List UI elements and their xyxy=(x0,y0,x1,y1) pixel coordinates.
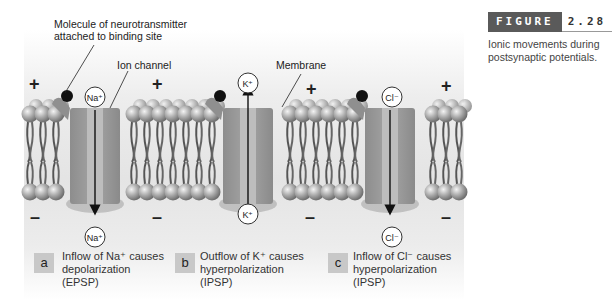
neurotransmitter-leader-line xyxy=(65,45,94,93)
lipid-tail xyxy=(212,122,215,162)
caption-line: Inflow of Cl⁻ causes xyxy=(353,250,451,263)
lipid-tail xyxy=(434,162,436,184)
lipid-tail xyxy=(30,122,33,162)
lipid-tail xyxy=(304,162,306,184)
ion-symbol: K⁺ xyxy=(242,210,253,220)
lipid-tail xyxy=(352,162,354,184)
lipid-tail xyxy=(53,162,55,184)
caption-line: (EPSP) xyxy=(62,276,164,289)
lipid-tail xyxy=(343,162,345,184)
lipid-head xyxy=(451,106,468,123)
lipid-tail xyxy=(287,162,289,184)
lipid-tail xyxy=(160,122,163,162)
caption-line: (IPSP) xyxy=(200,276,304,289)
lipid-tail xyxy=(330,162,332,184)
lipid-tail xyxy=(134,122,137,162)
lipid-tail xyxy=(135,162,137,184)
lipid-tail xyxy=(213,162,215,184)
ion-marker: K⁺ xyxy=(238,204,258,224)
lipid-tail xyxy=(200,162,202,184)
lipid-tail xyxy=(43,122,46,162)
neurotransmitter-label-line1: Molecule of neurotransmitter xyxy=(54,18,187,30)
lipid-tail xyxy=(313,162,315,184)
ion-channels xyxy=(52,90,419,213)
lipid-tail xyxy=(183,162,185,184)
lipid-tail xyxy=(329,122,332,162)
lipid-head xyxy=(451,184,468,201)
lipid-tail xyxy=(443,162,445,184)
lipid-tail xyxy=(161,162,163,184)
neurotransmitter-label: Molecule of neurotransmitter attached to… xyxy=(54,18,187,42)
lipid-tail xyxy=(173,122,176,162)
lipid-tail xyxy=(291,162,293,184)
negative-charge-sign: – xyxy=(305,208,315,226)
ion-marker: Cl⁻ xyxy=(382,87,402,107)
lipid-tail xyxy=(446,122,449,162)
lipid-tail xyxy=(456,162,458,184)
membrane-label: Membrane xyxy=(276,59,326,71)
neurotransmitter-molecule xyxy=(214,90,226,102)
ion-channel-label: Ion channel xyxy=(117,59,171,71)
lipid-tail xyxy=(147,122,150,162)
caption-line: Inflow of Na⁺ causes xyxy=(62,250,164,263)
lipid-tail xyxy=(316,122,319,162)
lipid-head xyxy=(347,184,364,201)
figure-description-line: postsynaptic potentials. xyxy=(488,51,599,64)
lipid-tail xyxy=(31,162,33,184)
lipid-tail xyxy=(157,162,159,184)
lipid-tail xyxy=(56,122,59,162)
panel-c-badge: c xyxy=(328,253,348,273)
lipid-tail xyxy=(148,162,150,184)
lipid-tail xyxy=(44,162,46,184)
negative-charge-sign: – xyxy=(152,208,162,226)
lipid-head xyxy=(204,184,221,201)
lipid-tail xyxy=(170,162,172,184)
caption-line: Outflow of K⁺ causes xyxy=(200,250,304,263)
lipid-tail xyxy=(40,162,42,184)
caption-line: hyperpolarization xyxy=(200,263,304,276)
neurotransmitter-label-line2: attached to binding site xyxy=(54,30,187,42)
ion-symbol: Na⁺ xyxy=(87,93,104,103)
lipid-tail xyxy=(131,162,133,184)
lipid-tail xyxy=(460,162,462,184)
ion-channel-leader-line xyxy=(110,71,128,108)
caption-line: depolarization xyxy=(62,263,164,276)
ion-symbol: Cl⁻ xyxy=(385,233,399,243)
ion-symbol: Cl⁻ xyxy=(385,93,399,103)
positive-charge-sign: + xyxy=(152,75,163,93)
positive-charge-sign: + xyxy=(441,77,452,95)
lipid-tail xyxy=(209,162,211,184)
lipid-tail xyxy=(27,162,29,184)
lipid-tail xyxy=(355,122,358,162)
caption-line: (IPSP) xyxy=(353,276,451,289)
ion-symbol: K⁺ xyxy=(242,79,253,89)
positive-charge-sign: + xyxy=(29,75,40,93)
ion-marker: Cl⁻ xyxy=(382,227,402,247)
figure-description-line: Ionic movements during xyxy=(488,38,599,51)
caption-line: hyperpolarization xyxy=(353,263,451,276)
panel-b-badge: b xyxy=(175,253,195,273)
panel-a-caption: Inflow of Na⁺ causes depolarization (EPS… xyxy=(62,250,164,289)
figure-number: 2.28 xyxy=(562,12,612,32)
neurotransmitter-molecule xyxy=(61,90,73,102)
neurotransmitter-molecule xyxy=(356,90,368,102)
lipid-tail xyxy=(186,122,189,162)
ion-marker: K⁺ xyxy=(238,73,258,93)
lipid-tail xyxy=(430,162,432,184)
lipid-tail xyxy=(356,162,358,184)
negative-charge-sign: – xyxy=(441,208,451,226)
ion-marker: Na⁺ xyxy=(85,227,105,247)
lipid-tail xyxy=(326,162,328,184)
lipid-tail xyxy=(196,162,198,184)
lipid-tail xyxy=(290,122,293,162)
lipid-tail xyxy=(459,122,462,162)
negative-charge-sign: – xyxy=(30,208,40,226)
figure-word: FIGURE xyxy=(488,12,562,32)
lipid-tail xyxy=(199,122,202,162)
lipid-head xyxy=(48,184,65,201)
lipid-tail xyxy=(433,122,436,162)
lipid-tail xyxy=(303,122,306,162)
ion-marker: Na⁺ xyxy=(85,87,105,107)
lipid-tail xyxy=(447,162,449,184)
lipid-tail xyxy=(342,122,345,162)
